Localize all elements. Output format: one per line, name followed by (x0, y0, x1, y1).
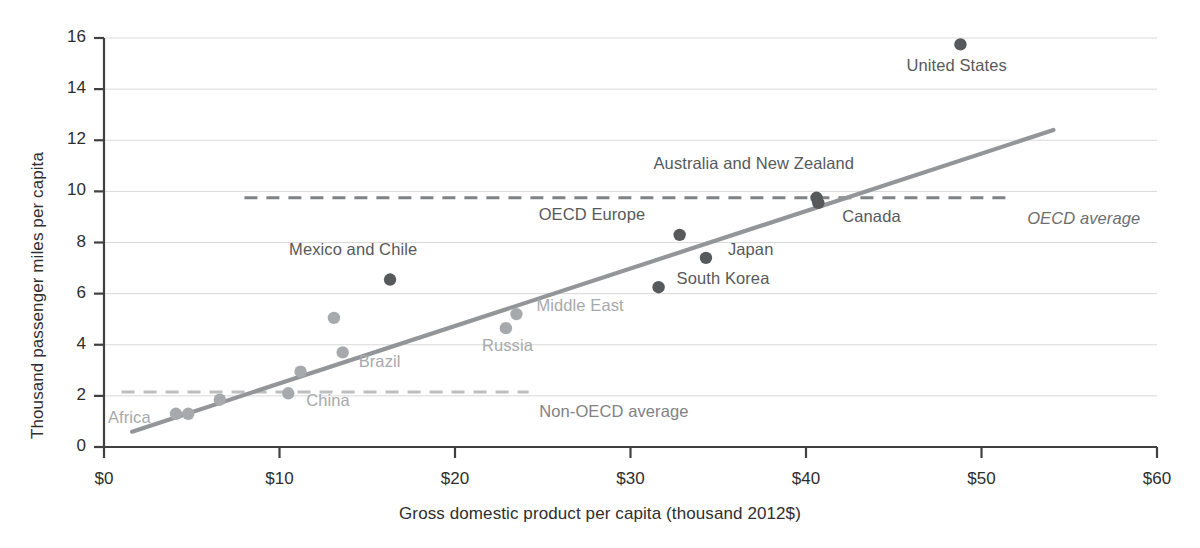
data-point (170, 408, 182, 420)
data-point (510, 308, 522, 320)
x-tick-label: $0 (64, 469, 144, 489)
data-point (294, 365, 306, 377)
point-label: Australia and New Zealand (654, 154, 855, 173)
y-tick-label: 12 (26, 129, 86, 149)
point-label: Middle East (536, 296, 623, 315)
point-label: Japan (728, 240, 773, 259)
reference-lines (122, 198, 1007, 392)
point-label: Mexico and Chile (289, 240, 417, 259)
y-axis-title: Thousand passenger miles per capita (28, 152, 48, 439)
x-tick-label: $30 (591, 469, 671, 489)
x-axis-title: Gross domestic product per capita (thous… (0, 504, 1200, 524)
data-point (282, 387, 294, 399)
data-point (954, 38, 966, 50)
data-point (652, 281, 664, 293)
data-point (673, 229, 685, 241)
point-label: OECD Europe (539, 205, 646, 224)
point-label: South Korea (677, 269, 770, 288)
chart-figure: 0246810121416 $0$10$20$30$40$50$60 Afric… (0, 0, 1200, 548)
data-point (214, 394, 226, 406)
regression-trend-line (132, 130, 1053, 432)
trend-line (132, 130, 1053, 432)
point-label: Brazil (359, 352, 401, 371)
point-label: China (306, 391, 350, 410)
data-point (812, 197, 824, 209)
data-point (384, 273, 396, 285)
point-label: Canada (842, 207, 900, 226)
data-point (700, 252, 712, 264)
x-tick-label: $20 (415, 469, 495, 489)
scatter-plot-canvas (0, 0, 1200, 548)
non-oecd-average-label: Non-OECD average (539, 402, 688, 421)
y-tick-label: 16 (26, 27, 86, 47)
data-point (500, 322, 512, 334)
tick-marks (94, 38, 1157, 458)
y-tick-label: 0 (26, 436, 86, 456)
x-tick-label: $50 (942, 469, 1022, 489)
point-label: Africa (108, 408, 151, 427)
data-point (336, 346, 348, 358)
x-tick-label: $10 (240, 469, 320, 489)
oecd-average-label: OECD average (1027, 209, 1140, 228)
point-label: United States (906, 56, 1006, 75)
data-points (170, 38, 967, 420)
data-point (182, 408, 194, 420)
data-point (328, 312, 340, 324)
point-label: Russia (482, 336, 533, 355)
x-tick-label: $40 (766, 469, 846, 489)
x-tick-label: $60 (1117, 469, 1197, 489)
y-tick-label: 14 (26, 78, 86, 98)
